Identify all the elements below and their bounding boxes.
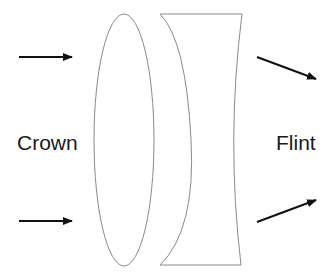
outgoing-ray-top-arrow [257,57,316,79]
flint-label: Flint [276,131,316,154]
flint-lens [160,14,242,265]
lens-diagram: Crown Flint [0,0,327,277]
outgoing-ray-bottom-arrow [257,200,316,222]
crown-label: Crown [17,131,78,154]
crown-lens [94,14,154,266]
